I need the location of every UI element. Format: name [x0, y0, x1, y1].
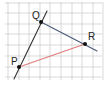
triangle-grid-diagram: Q R P: [0, 0, 106, 86]
label-q: Q: [32, 10, 40, 21]
point-r: [83, 42, 87, 46]
label-r: R: [88, 31, 95, 42]
diagram-canvas: Q R P: [0, 0, 106, 86]
label-p: P: [11, 56, 18, 67]
